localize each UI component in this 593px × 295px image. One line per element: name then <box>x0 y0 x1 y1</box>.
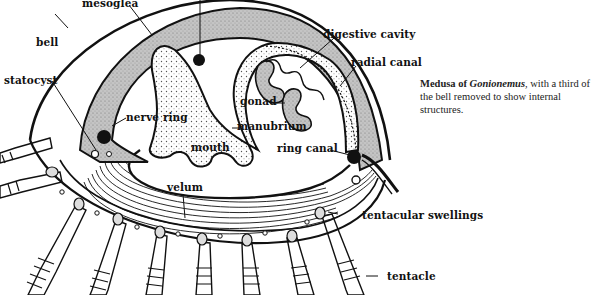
label-manubrium: manubrium <box>237 121 307 132</box>
label-mouth: mouth <box>191 142 230 153</box>
label-mesoglea: mesoglea <box>82 0 138 9</box>
right-ring-canal-bulb <box>347 150 361 164</box>
statocyst-marker <box>92 151 99 158</box>
label-bell: bell <box>36 37 58 48</box>
caption-lead: Medusa of <box>420 78 470 89</box>
label-tentacular-swellings: tentacular swellings <box>362 210 483 221</box>
nerve-ring-marker <box>107 152 112 157</box>
label-tentacle: tentacle <box>387 271 436 282</box>
label-nerve-ring: nerve ring <box>126 112 188 123</box>
caption-genus: Gonionemus <box>470 78 525 89</box>
label-digestive-cavity: digestive cavity <box>323 29 415 40</box>
figure-caption: Medusa of Gonionemus, with a third of th… <box>420 77 592 116</box>
label-gonad: gonad <box>240 96 277 107</box>
label-ring-canal: ring canal <box>277 143 338 154</box>
top-canal-bulb <box>193 54 205 66</box>
left-ring-canal-bulb <box>97 130 111 144</box>
label-velum: velum <box>167 182 203 193</box>
medusa-diagram: mesoglea bell statocyst nerve ring diges… <box>0 0 593 295</box>
label-statocyst: statocyst <box>4 75 58 86</box>
label-radial-canal: radial canal <box>351 57 422 68</box>
